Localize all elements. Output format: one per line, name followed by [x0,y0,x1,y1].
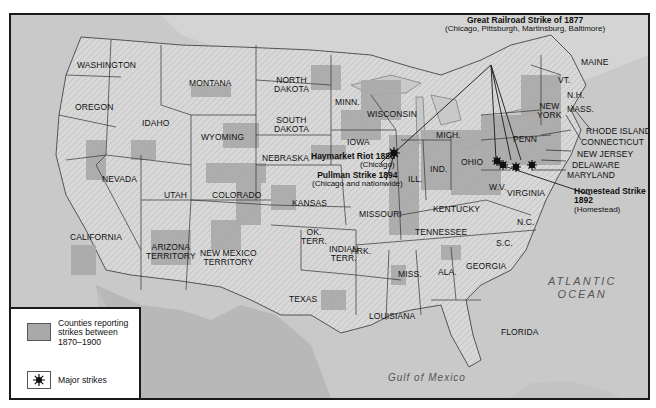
state-label-miss: MISS. [398,270,422,279]
north-dakota-line2: DAKOTA [274,85,309,94]
homestead-strike-detail: (Homestead) [574,206,646,215]
state-label-colorado: COLORADO [212,191,261,200]
state-label-virginia: VIRGINIA [507,189,545,198]
state-label-new-york: NEW YORK [537,102,562,119]
state-label-california: CALIFORNIA [70,233,122,242]
state-label-florida: FLORIDA [501,328,539,337]
atlantic-label-line1: ATLANTIC [548,275,616,288]
strike-annotation-pullman: Pullman Strike 1894 (Chicago and nationw… [312,171,403,189]
state-label-rhode-island: RHODE ISLAND [586,127,650,136]
state-label-washington: WASHINGTON [77,61,136,70]
state-label-nevada: NEVADA [102,175,137,184]
strike-annotation-homestead: Homestead Strike 1892 (Homestead) [574,187,646,214]
state-label-ark: ARK. [351,247,371,256]
state-label-south-dakota: SOUTH DAKOTA [274,116,309,133]
map-legend: Counties reporting strikes between 1870–… [11,307,141,398]
state-label-ohio: OHIO [461,158,483,167]
state-label-louisiana: LOUISIANA [369,312,415,321]
state-label-sc: S.C. [496,239,513,248]
state-label-wv: W.V. [489,183,507,192]
state-label-maryland: MARYLAND [567,171,615,180]
state-label-oregon: OREGON [75,103,113,112]
gulf-of-mexico-label: Gulf of Mexico [388,372,466,383]
state-label-idaho: IDAHO [142,119,169,128]
atlantic-ocean-label: ATLANTIC OCEAN [548,275,616,300]
state-label-vt: VT. [558,76,571,85]
strike-star-baltimore [527,160,537,170]
strike-annotation-great-railroad: Great Railroad Strike of 1877 (Chicago, … [445,16,605,34]
state-label-mich: MICH. [436,131,461,140]
state-label-wyoming: WYOMING [201,133,244,142]
state-label-kentucky: KENTUCKY [433,205,480,214]
state-label-new-jersey: NEW JERSEY [577,150,633,159]
state-label-ala: ALA. [438,268,457,277]
state-label-iowa: IOWA [347,138,370,147]
arizona-line2: TERRITORY [146,252,196,261]
strike-annotation-haymarket: Haymarket Riot 1886 (Chicago) [311,152,395,170]
state-label-texas: TEXAS [289,295,317,304]
state-label-connecticut: CONNECTICUT [581,138,644,147]
legend-swatch-major-strikes [27,371,51,389]
state-label-ok-terr: OK. TERR. [301,228,327,245]
state-label-new-mexico: NEW MEXICO TERRITORY [200,249,257,266]
state-label-ill: ILL. [408,175,423,184]
legend-label-strike-counties: Counties reporting strikes between 1870–… [58,319,138,347]
pullman-strike-detail: (Chicago and nationwide) [312,180,403,189]
legend-label-major-strikes: Major strikes [58,375,107,385]
map-frame: PACIFIC OCEAN ATLANTIC OCEAN Gulf of Mex… [9,13,650,400]
cuba-landmass [511,381,621,398]
state-label-maine: MAINE [581,58,608,67]
great-railroad-strike-detail: (Chicago, Pittsburgh, Martinsburg, Balti… [445,25,605,34]
state-label-mass: MASS. [567,105,594,114]
state-label-minn: MINN. [335,98,360,107]
new-mexico-line2: TERRITORY [200,258,257,267]
homestead-strike-year: 1892 [574,195,593,205]
state-label-georgia: GEORGIA [466,262,506,271]
state-label-arizona: ARIZONA TERRITORY [146,243,196,260]
state-label-penn: PENN [513,135,537,144]
state-label-north-dakota: NORTH DAKOTA [274,76,309,93]
state-label-kansas: KANSAS [292,199,327,208]
state-label-tennessee: TENNESSEE [415,228,467,237]
atlantic-label-line2: OCEAN [548,288,616,301]
legend-swatch-strike-counties [27,323,51,341]
legend-line3: 1870–1900 [58,338,138,347]
state-label-ind: IND. [430,165,447,174]
strike-star-martinsburg [511,162,521,172]
haymarket-riot-detail: (Chicago) [311,161,395,170]
star-burst-icon [32,373,46,387]
state-label-missouri: MISSOURI [359,210,402,219]
strike-star-pittsburgh [498,160,508,170]
state-label-utah: UTAH [164,191,187,200]
south-dakota-line2: DAKOTA [274,125,309,134]
state-label-wisconsin: WISCONSIN [367,110,417,119]
state-label-nh: N.H. [567,91,584,100]
state-label-montana: MONTANA [189,79,232,88]
new-york-line2: YORK [537,111,562,120]
ok-terr-line2: TERR. [301,237,327,246]
state-label-delaware: DELAWARE [572,161,620,170]
state-label-nc: N.C. [517,218,534,227]
state-label-nebraska: NEBRASKA [262,154,309,163]
